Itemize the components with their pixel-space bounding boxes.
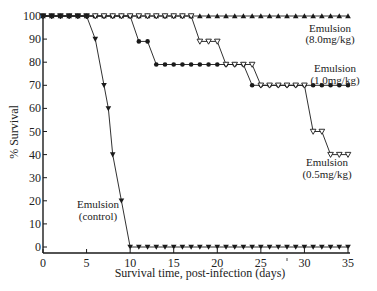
survival-chart: 051015202530350102030405060708090100 Emu… (0, 0, 377, 291)
y-tick-label: 100 (23, 9, 41, 23)
series-emulsion-0-5mg-kg- (40, 14, 351, 158)
annotation-label: Emulsion(1.0mg/kg) (310, 62, 360, 87)
svg-text:(8.0mg/kg): (8.0mg/kg) (305, 33, 355, 46)
svg-text:Emulsion: Emulsion (306, 156, 349, 168)
annotation-label: Emulsion(control) (77, 198, 120, 223)
svg-text:(0.5mg/kg): (0.5mg/kg) (302, 168, 352, 181)
svg-text:(1.0mg/kg): (1.0mg/kg) (310, 74, 360, 87)
annotation-label: Emulsion(8.0mg/kg) (305, 22, 355, 46)
x-tick-label: 5 (84, 256, 90, 270)
y-tick-label: 60 (29, 101, 41, 115)
y-tick-label: 40 (29, 148, 41, 162)
svg-text:Emulsion: Emulsion (314, 62, 357, 74)
x-tick-label: 30 (298, 256, 310, 270)
y-tick-label: 20 (29, 194, 41, 208)
annotation-label: Emulsion(0.5mg/kg) (302, 156, 352, 181)
y-tick-label: 90 (29, 32, 41, 46)
y-tick-label: 10 (29, 217, 41, 231)
y-tick-label: 30 (29, 171, 41, 185)
series-emulsion-1-0mg-kg- (41, 14, 351, 88)
svg-text:(control): (control) (79, 210, 118, 223)
y-tick-label: 50 (29, 125, 41, 139)
svg-text:Emulsion: Emulsion (77, 198, 120, 210)
y-tick-label: 0 (35, 240, 41, 254)
annotations: Emulsion(8.0mg/kg)Emulsion(1.0mg/kg)Emul… (77, 22, 360, 223)
y-tick-label: 80 (29, 55, 41, 69)
x-tick-label: 0 (40, 256, 46, 270)
x-tick-label: 35 (342, 256, 354, 270)
y-axis-title: % Survival (7, 105, 21, 159)
axes: 051015202530350102030405060708090100 (23, 9, 354, 270)
x-axis-title: Survival time, post-infection (days) (115, 266, 286, 280)
y-tick-label: 70 (29, 78, 41, 92)
